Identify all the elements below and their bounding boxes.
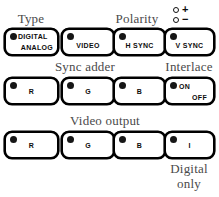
button-video[interactable]: VIDEO xyxy=(61,28,115,56)
group-label-type: Type xyxy=(4,12,58,26)
led-indicator-icon xyxy=(119,33,126,40)
button-v-sync[interactable]: V SYNC xyxy=(164,28,215,56)
button-digital-analog[interactable]: DIGITAL ANALOG xyxy=(4,28,59,56)
button-label: B xyxy=(115,88,164,96)
button-label: R xyxy=(6,88,57,96)
note-digital-only-line1: Digital xyxy=(160,162,218,176)
button-label-line1: DIGITAL xyxy=(18,33,48,41)
polarity-plus-led xyxy=(173,7,179,13)
button-video-output-r[interactable]: R xyxy=(4,131,59,159)
video-control-panel: Type Polarity + − DIGITAL ANALOG VIDEO H… xyxy=(0,0,219,197)
group-label-sync-adder: Sync adder xyxy=(45,60,125,74)
button-label-line2: ANALOG xyxy=(21,44,53,52)
button-video-output-b[interactable]: B xyxy=(113,131,166,159)
led-indicator-icon xyxy=(67,33,74,40)
group-label-interlace: Interlace xyxy=(160,60,218,74)
group-label-video-output: Video output xyxy=(60,114,150,128)
button-sync-adder-g[interactable]: G xyxy=(61,77,115,105)
button-label: I xyxy=(166,142,213,150)
button-video-output-g[interactable]: G xyxy=(61,131,115,159)
polarity-minus-sign: − xyxy=(182,14,188,25)
button-label: R xyxy=(6,142,57,150)
button-label: G xyxy=(63,142,113,150)
button-label: VIDEO xyxy=(63,42,113,50)
led-indicator-icon xyxy=(170,33,177,40)
button-label: G xyxy=(63,88,113,96)
note-digital-only-line2: only xyxy=(160,177,218,191)
button-h-sync[interactable]: H SYNC xyxy=(113,28,166,56)
button-interlace-on-off[interactable]: ON OFF xyxy=(164,77,215,105)
button-label-line2: OFF xyxy=(192,94,207,102)
button-label-line1: ON xyxy=(179,83,190,91)
button-label: B xyxy=(115,142,164,150)
button-label: H SYNC xyxy=(115,42,164,50)
polarity-minus-led xyxy=(173,17,179,23)
led-indicator-icon xyxy=(10,33,17,40)
button-video-output-i[interactable]: I xyxy=(164,131,215,159)
button-label: V SYNC xyxy=(166,42,213,50)
group-label-polarity: Polarity xyxy=(106,12,168,26)
button-sync-adder-r[interactable]: R xyxy=(4,77,59,105)
led-indicator-icon xyxy=(170,82,177,89)
button-sync-adder-b[interactable]: B xyxy=(113,77,166,105)
